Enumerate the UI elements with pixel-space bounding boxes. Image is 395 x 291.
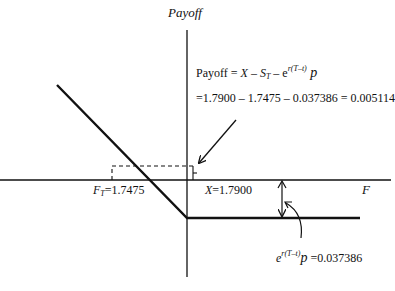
x-axis-label: F (362, 183, 370, 197)
formula-line-1: Payoff = X – ST – er(T–t) p (196, 66, 317, 80)
strike-label: X=1.7900 (205, 183, 252, 197)
y-axis-label: Payoff (168, 6, 202, 20)
dashed-payoff-marker (112, 166, 193, 180)
premium-label: er(T–t)p =0.037386 (276, 251, 362, 265)
formula-line-2: =1.7900 – 1.7475 – 0.037386 = 0.005114 (196, 91, 395, 105)
ft-label: FT=1.7475 (93, 183, 145, 197)
premium-curved-arrow (286, 203, 301, 238)
payoff-arrow (199, 120, 236, 163)
